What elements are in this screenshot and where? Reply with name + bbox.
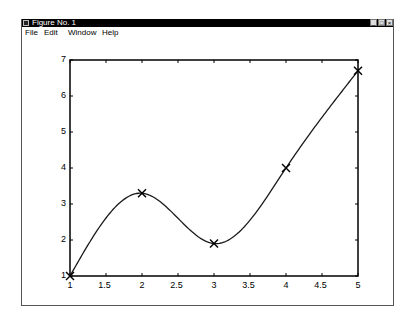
spline-curve (70, 71, 358, 276)
data-point-markers (66, 67, 362, 280)
x-tick-label: 4 (283, 280, 288, 290)
x-tick-label: 2.5 (170, 280, 183, 290)
y-tick-label: 4 (61, 162, 66, 172)
x-tick-label: 1 (67, 280, 72, 290)
x-tick-label: 5 (355, 280, 360, 290)
x-tick-label: 4.5 (314, 280, 327, 290)
y-tick-label: 5 (61, 126, 66, 136)
x-marker (282, 164, 290, 172)
y-tick-label: 7 (61, 54, 66, 64)
y-tick-label: 6 (61, 90, 66, 100)
x-tick-label: 3 (211, 280, 216, 290)
y-tick-label: 3 (61, 198, 66, 208)
x-tick-label: 2 (139, 280, 144, 290)
x-tick-label: 3.5 (242, 280, 255, 290)
y-tick-label: 1 (61, 270, 66, 280)
x-tick-label: 1.5 (98, 280, 111, 290)
y-tick-label: 2 (61, 234, 66, 244)
